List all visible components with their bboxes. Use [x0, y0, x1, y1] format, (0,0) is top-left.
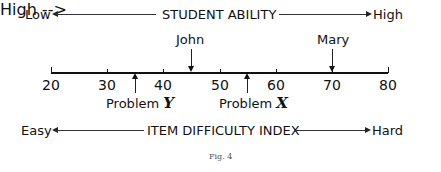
john-pointer-line	[191, 49, 192, 67]
item-difficulty-title: ITEM DIFFICULTY INDEX	[147, 124, 300, 138]
tick-label: 30	[92, 77, 122, 93]
arrow-line	[294, 130, 366, 131]
high-label: High	[373, 8, 403, 22]
arrow-line	[56, 130, 144, 131]
axis-tick	[388, 67, 389, 73]
arrow-down-icon	[329, 66, 335, 72]
axis-tick	[276, 69, 277, 73]
tick-label: 40	[148, 77, 178, 93]
hard-label: Hard	[372, 124, 403, 138]
figure-caption: Fig. 4	[209, 152, 232, 161]
axis-tick	[107, 69, 108, 73]
tick-label: 70	[317, 77, 347, 93]
student-label-john: John	[176, 33, 204, 47]
tick-label: 60	[261, 77, 291, 93]
problem-x-pointer-line	[247, 78, 248, 93]
axis-tick	[51, 67, 52, 73]
easy-label: Easy	[21, 124, 52, 138]
axis-tick	[163, 69, 164, 73]
axis-tick	[220, 69, 221, 73]
arrow-line	[279, 14, 367, 15]
arrow-right-icon	[366, 11, 372, 17]
tick-label: 20	[36, 77, 66, 93]
arrow-line	[56, 14, 156, 15]
low-label: Low	[25, 8, 51, 22]
problem-label-x: Problem X	[219, 96, 288, 111]
tick-label: 80	[373, 77, 403, 93]
tick-label: 50	[205, 77, 235, 93]
student-ability-title: STUDENT ABILITY	[162, 8, 276, 22]
problem-y-pointer-line	[135, 78, 136, 93]
arrow-down-icon	[188, 66, 194, 72]
student-label-mary: Mary	[317, 33, 349, 47]
problem-label-y: Problem Y	[106, 96, 174, 111]
mary-pointer-line	[332, 49, 333, 67]
arrow-right-icon	[365, 127, 371, 133]
